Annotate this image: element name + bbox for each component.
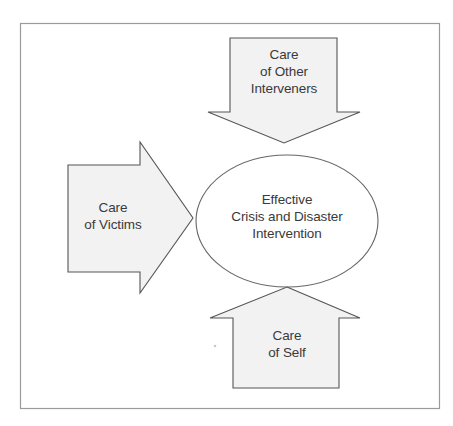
diagram-svg: Care of Other Interveners Care of Victim… <box>0 0 453 426</box>
care-of-other-interveners-line-1: Care <box>270 47 299 62</box>
care-of-victims-line-2: of Victims <box>84 217 142 232</box>
care-of-other-interveners-line-3: Interveners <box>251 81 318 96</box>
care-of-self-arrow[interactable]: Care of Self <box>210 287 360 388</box>
care-of-other-interveners-line-2: of Other <box>260 64 309 79</box>
care-of-victims-arrow[interactable]: Care of Victims <box>68 142 193 293</box>
effective-intervention-ellipse[interactable]: Effective Crisis and Disaster Interventi… <box>196 155 378 287</box>
care-of-self-line-1: Care <box>273 328 302 343</box>
care-of-other-interveners-arrow[interactable]: Care of Other Interveners <box>208 38 360 143</box>
care-of-self-line-2: of Self <box>268 345 306 360</box>
care-of-victims-line-1: Care <box>99 200 128 215</box>
figure-canvas: Care of Other Interveners Care of Victim… <box>0 0 453 426</box>
effective-intervention-line-2: Crisis and Disaster <box>231 209 343 224</box>
scan-artifact-dot <box>214 345 217 348</box>
effective-intervention-line-3: Intervention <box>252 226 321 241</box>
effective-intervention-line-1: Effective <box>262 192 313 207</box>
